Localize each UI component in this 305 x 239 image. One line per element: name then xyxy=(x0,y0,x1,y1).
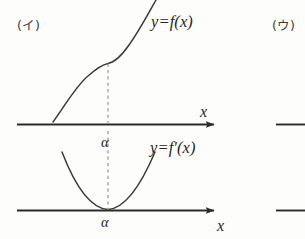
figure-canvas xyxy=(0,0,305,239)
curve-f-of-x xyxy=(53,0,156,122)
figure-root: (イ) (ウ) y=f(x) y=f'(x) x x α α xyxy=(0,0,305,239)
x-axis-label-lower: x xyxy=(217,218,224,234)
curve-f-prime-of-x xyxy=(62,152,155,210)
x-axis-label-upper: x xyxy=(200,104,207,120)
alpha-tick-label-lower: α xyxy=(101,215,109,230)
equation-label-f-prime: y=f'(x) xyxy=(150,140,196,157)
panel-tag-u: (ウ) xyxy=(272,20,295,33)
alpha-tick-label-upper: α xyxy=(101,135,109,150)
panel-tag-i: (イ) xyxy=(17,20,40,33)
panel-u-cropped-axes xyxy=(276,125,305,211)
equation-label-f: y=f(x) xyxy=(151,14,193,31)
